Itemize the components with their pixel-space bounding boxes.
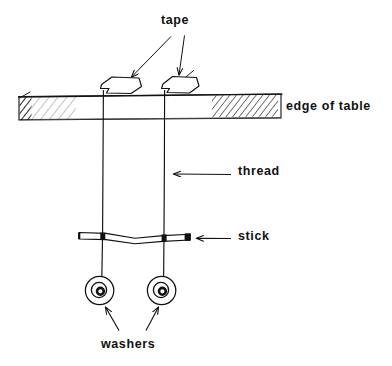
tape-leader-right (179, 36, 185, 76)
tape-leaders-group (132, 36, 185, 78)
diagram-canvas: tape edge of table thread stick washers (0, 0, 392, 366)
washer-left-hole (97, 288, 104, 295)
tape-group (101, 71, 200, 94)
table-left-sketch-hatch (32, 97, 77, 120)
label-tape: tape (161, 14, 189, 27)
washer-right-hole (159, 288, 166, 295)
stick-knot-left (100, 233, 105, 240)
washers-group (85, 276, 175, 304)
label-thread: thread (238, 165, 280, 178)
stick-body (79, 233, 190, 244)
washers-callout-arrow-right (146, 307, 159, 331)
stick-knot-right (162, 234, 167, 241)
table-right-hatch (212, 95, 278, 118)
stick-group (79, 233, 190, 244)
washer-left (85, 276, 113, 304)
callout-arrows-group (106, 174, 232, 331)
tape-right (162, 77, 200, 94)
table-group (19, 92, 283, 120)
label-edge-of-table: edge of table (286, 100, 371, 113)
tape-right-tail (186, 71, 194, 78)
tape-left (101, 77, 142, 94)
tape-leader-left (132, 37, 172, 78)
label-washers: washers (101, 338, 155, 351)
thread-callout-arrow (174, 174, 232, 175)
apparatus-drawing (0, 0, 392, 366)
table-cut-hatch (20, 97, 32, 120)
washers-callout-arrow-left (106, 307, 120, 331)
washer-right (147, 276, 175, 304)
stick-right-cap (185, 234, 190, 241)
label-stick: stick (238, 230, 270, 243)
